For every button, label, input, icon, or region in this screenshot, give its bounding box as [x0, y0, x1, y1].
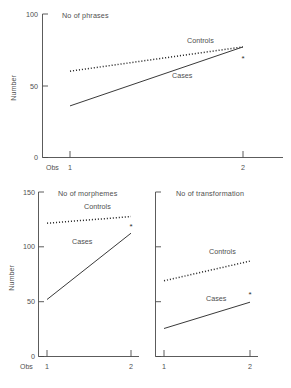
series-line-cases-top	[70, 47, 243, 106]
y-tick-label-0-bl: 0	[31, 352, 35, 361]
series-label-controls-bl: Controls	[84, 202, 111, 211]
x-tick-label-2-br: 2	[248, 362, 252, 371]
y-tick-label-0-top: 0	[34, 153, 38, 162]
x-tick-label-1-br: 1	[162, 362, 166, 371]
y-tick-label-50-top: 50	[30, 82, 38, 91]
x-tick-label-2-top: 2	[241, 163, 245, 172]
series-label-cases-br: Cases	[206, 294, 227, 303]
data-point-marker-top: *	[241, 54, 244, 63]
chart-canvas-bottom-right: 1 2 No of transformation Controls Cases …	[146, 182, 291, 388]
x-tick-label-1-top: 1	[68, 163, 72, 172]
chart-title-br: No of transformation	[176, 189, 244, 198]
series-line-controls-top	[70, 47, 243, 71]
series-line-controls-br	[164, 261, 250, 281]
series-line-cases-br	[164, 302, 250, 328]
y-tick-label-150-bl: 150	[23, 188, 35, 197]
chart-no-of-transformation: 1 2 No of transformation Controls Cases …	[146, 182, 291, 388]
x-axis-label-bl: Obs	[20, 363, 33, 370]
data-point-marker-bl: *	[129, 222, 132, 231]
y-tick-label-100-top: 100	[26, 10, 38, 19]
series-label-cases-top: Cases	[172, 71, 193, 80]
series-line-controls-bl	[47, 217, 131, 224]
y-tick-label-100-bl: 100	[23, 242, 35, 251]
x-tick-label-2-bl: 2	[129, 362, 133, 371]
chart-title-bl: No of morphemes	[58, 189, 118, 198]
chart-no-of-morphemes: 150 100 50 0 1 2 Obs Number No of morphe…	[0, 182, 146, 388]
data-point-marker-br: *	[248, 290, 251, 299]
y-axis-label-bl: Number	[7, 265, 16, 291]
series-label-controls-top: Controls	[187, 36, 214, 45]
chart-no-of-phrases: 100 50 0 1 2 Obs Number No of phrases Co…	[0, 0, 291, 182]
y-tick-label-50-bl: 50	[27, 297, 35, 306]
y-axis-label-top: Number	[9, 75, 18, 101]
chart-title-top: No of phrases	[62, 11, 109, 20]
x-axis-label-top: Obs	[46, 164, 59, 171]
chart-canvas-bottom-left: 150 100 50 0 1 2 Obs Number No of morphe…	[0, 182, 146, 388]
x-tick-label-1-bl: 1	[45, 362, 49, 371]
figure-panel-group: 100 50 0 1 2 Obs Number No of phrases Co…	[0, 0, 291, 388]
series-label-controls-br: Controls	[209, 247, 236, 256]
chart-canvas-top: 100 50 0 1 2 Obs Number No of phrases Co…	[0, 0, 291, 182]
series-label-cases-bl: Cases	[72, 237, 93, 246]
